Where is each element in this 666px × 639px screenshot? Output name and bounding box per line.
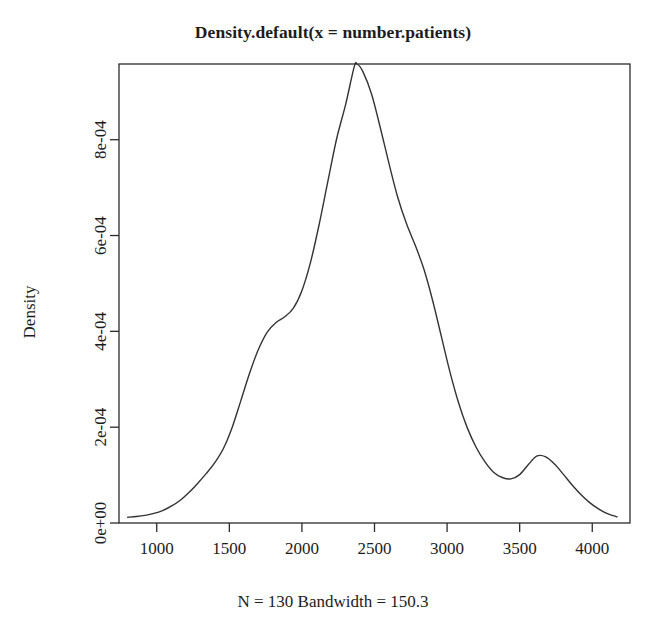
plot-caption: N = 130 Bandwidth = 150.3 [0, 592, 666, 612]
plot-canvas: 1000150020002500300035004000 0e+002e-044… [0, 0, 666, 639]
x-tick-label: 3000 [430, 539, 464, 558]
x-tick-label: 4000 [575, 539, 609, 558]
y-tick-label: 4e-04 [91, 312, 110, 351]
y-tick-label: 6e-04 [91, 216, 110, 255]
y-tick-label: 0e+00 [91, 502, 110, 545]
density-curve-path [128, 63, 617, 518]
x-tick-label: 3500 [503, 539, 537, 558]
x-axis-ticks: 1000150020002500300035004000 [140, 523, 610, 558]
y-tick-label: 8e-04 [91, 120, 110, 159]
x-tick-label: 1500 [212, 539, 246, 558]
x-tick-label: 1000 [140, 539, 174, 558]
x-tick-label: 2000 [285, 539, 319, 558]
density-plot: Density.default(x = number.patients) Den… [0, 0, 666, 639]
density-curve [128, 63, 617, 518]
plot-frame [119, 64, 630, 523]
y-tick-label: 2e-04 [91, 407, 110, 446]
x-tick-label: 2500 [358, 539, 392, 558]
y-axis-ticks: 0e+002e-044e-046e-048e-04 [91, 120, 119, 544]
